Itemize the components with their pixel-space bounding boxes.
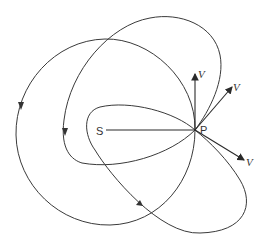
upper-orbit	[62, 17, 221, 165]
large-orbit	[16, 39, 195, 225]
lower-orbit	[87, 105, 247, 233]
velocity-label-lower-right: V	[246, 156, 254, 168]
point-label: P	[200, 124, 207, 136]
focus-label: S	[96, 125, 103, 137]
velocity-label-up: V	[198, 68, 206, 80]
velocity-label-upper-right: V	[233, 81, 241, 93]
orbit-diagram: S P V V V	[0, 0, 265, 241]
